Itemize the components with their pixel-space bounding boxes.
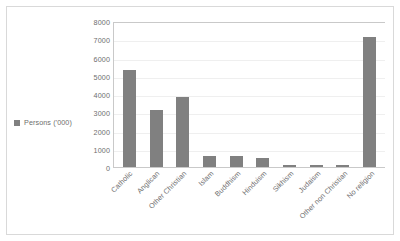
- bar[interactable]: [230, 156, 243, 167]
- bar-chart-figure: Persons ('000) 0100020003000400050006000…: [0, 0, 400, 241]
- y-axis-tick-label: 2000: [94, 127, 110, 136]
- x-axis-tick-label: Islam: [196, 169, 215, 188]
- bar-slot: [250, 23, 277, 167]
- x-axis-tick-label: Sikhism: [271, 169, 296, 194]
- bar-series-persons: [114, 23, 385, 167]
- bar[interactable]: [203, 156, 216, 167]
- bar[interactable]: [176, 97, 189, 167]
- x-axis-tick-label: Catholic: [109, 169, 134, 194]
- plot-area: [113, 22, 385, 168]
- bar-slot: [143, 23, 170, 167]
- bar[interactable]: [123, 70, 136, 167]
- bar-slot: [116, 23, 143, 167]
- y-axis-tick-label: 8000: [94, 18, 110, 27]
- y-axis-tick-label: 7000: [94, 36, 110, 45]
- bar-slot: [276, 23, 303, 167]
- x-axis-tick-label: Hinduism: [241, 169, 269, 197]
- bar[interactable]: [336, 165, 349, 167]
- y-axis-tick-label: 5000: [94, 72, 110, 81]
- chart-legend: Persons ('000): [14, 118, 72, 127]
- x-axis-tick-label: Judaism: [297, 169, 323, 195]
- x-axis-tick-label: Other non Christian: [297, 169, 349, 221]
- bar[interactable]: [310, 165, 323, 167]
- bar[interactable]: [283, 165, 296, 167]
- bar-slot: [169, 23, 196, 167]
- y-axis-tick-labels: 010002000300040005000600070008000: [78, 18, 110, 172]
- y-axis-tick-label: 0: [106, 164, 110, 173]
- x-axis-tick-label: Buddhism: [212, 169, 242, 199]
- bar-slot: [356, 23, 383, 167]
- bar[interactable]: [150, 110, 163, 167]
- bar-slot: [330, 23, 357, 167]
- bar[interactable]: [363, 37, 376, 167]
- y-axis-tick-label: 1000: [94, 145, 110, 154]
- legend-entry-label: Persons ('000): [24, 118, 72, 127]
- y-axis-tick-label: 6000: [94, 54, 110, 63]
- y-axis-tick-label: 4000: [94, 91, 110, 100]
- bar-slot: [196, 23, 223, 167]
- legend-square-marker-icon: [14, 120, 20, 126]
- bar[interactable]: [256, 158, 269, 167]
- y-axis-tick-label: 3000: [94, 109, 110, 118]
- bar-slot: [223, 23, 250, 167]
- x-axis-category-labels: CatholicAnglicanOther ChristianIslamBudd…: [113, 169, 385, 229]
- x-axis-tick-label: No religion: [345, 169, 376, 200]
- bar-slot: [303, 23, 330, 167]
